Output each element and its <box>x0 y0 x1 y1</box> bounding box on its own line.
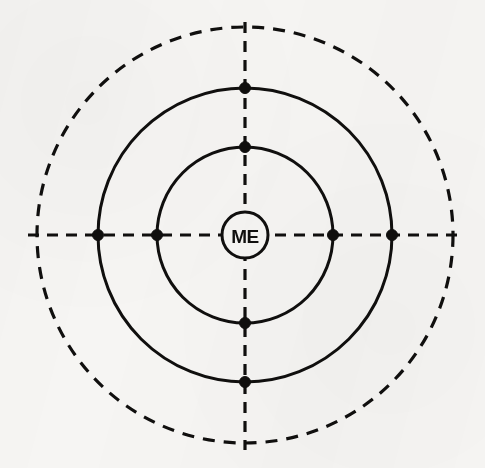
node-outer-left[interactable] <box>93 230 104 241</box>
node-middle-top[interactable] <box>240 142 251 153</box>
node-outer-top[interactable] <box>240 83 251 94</box>
node-middle-right[interactable] <box>328 230 339 241</box>
node-outer-bottom[interactable] <box>240 377 251 388</box>
node-middle-left[interactable] <box>152 230 163 241</box>
node-middle-bottom[interactable] <box>240 318 251 329</box>
node-outer-right[interactable] <box>387 230 398 241</box>
center-label: ME <box>231 226 259 247</box>
diagram-canvas: ME <box>0 0 485 468</box>
concentric-circles-diagram: ME <box>0 0 485 468</box>
